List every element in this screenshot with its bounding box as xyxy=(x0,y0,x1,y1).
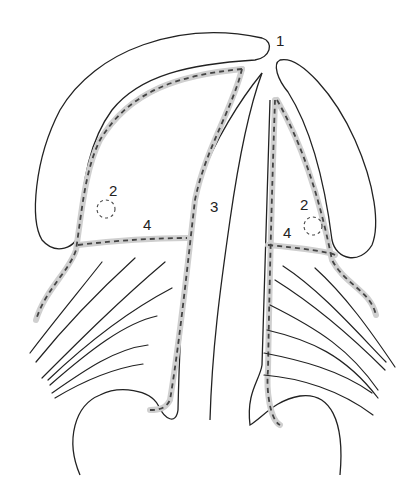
label-1: 1 xyxy=(276,32,284,49)
left-column-inner xyxy=(210,73,262,420)
label-4-left: 4 xyxy=(143,216,151,233)
label-2-left: 2 xyxy=(109,182,117,199)
left-circle-2 xyxy=(97,200,115,218)
right-column-outline xyxy=(249,100,341,475)
left-dashed-outer xyxy=(36,69,242,320)
label-2-right: 2 xyxy=(300,196,308,213)
label-4-right: 4 xyxy=(283,224,291,241)
left-upper-outline xyxy=(36,33,270,249)
right-circle-2 xyxy=(304,217,322,235)
anatomical-diagram xyxy=(0,0,406,501)
label-3: 3 xyxy=(210,198,218,215)
